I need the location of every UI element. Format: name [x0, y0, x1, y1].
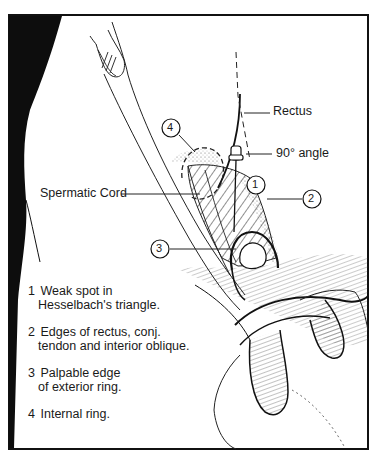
- callout-number-1: 1: [252, 178, 258, 190]
- legend-item-3: 3 Palpable edge of exterior ring.: [28, 366, 190, 394]
- legend-text: Weak spot in: [40, 284, 112, 298]
- legend-number: 1: [28, 284, 37, 298]
- legend-text: Hesselbach's triangle.: [28, 298, 190, 312]
- legend-number: 2: [28, 325, 37, 339]
- hand-region: [180, 254, 368, 449]
- figure-legend: 1 Weak spot in Hesselbach's triangle. 2 …: [28, 284, 190, 434]
- label-rectus: Rectus: [273, 104, 312, 118]
- rectus-dashed-line: [236, 52, 250, 160]
- label-spermatic-cord: Spermatic Cord: [40, 186, 127, 200]
- legend-number: 4: [28, 407, 37, 421]
- legend-text: tendon and interior oblique.: [28, 339, 190, 353]
- legend-item-4: 4 Internal ring.: [28, 407, 190, 421]
- label-90-angle: 90° angle: [276, 146, 329, 160]
- legend-text: Edges of rectus, conj.: [40, 325, 160, 339]
- legend-number: 3: [28, 366, 37, 380]
- legend-text: Internal ring.: [40, 407, 109, 421]
- legend-text: Palpable edge: [40, 366, 120, 380]
- legend-item-2: 2 Edges of rectus, conj. tendon and inte…: [28, 325, 190, 353]
- callout-number-4: 4: [167, 121, 173, 133]
- callout-number-3: 3: [156, 242, 162, 254]
- finger: [250, 330, 288, 415]
- cut-off-caption: [200, 452, 380, 462]
- callout-number-2: 2: [308, 192, 314, 204]
- legend-text: of exterior ring.: [28, 380, 190, 394]
- legend-item-1: 1 Weak spot in Hesselbach's triangle.: [28, 284, 190, 312]
